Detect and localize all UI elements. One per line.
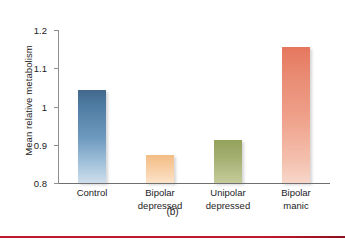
bar-control[interactable]: [78, 90, 106, 183]
x-axis-line: [58, 183, 330, 184]
figure-caption: (b): [0, 206, 345, 217]
y-tick-label-1.2: 1.2: [34, 25, 47, 36]
y-axis-label: Mean relative metabolism: [23, 26, 34, 176]
y-tick-label-1.1: 1.1: [34, 63, 47, 74]
y-tick-label-0.8: 0.8: [34, 178, 47, 189]
y-tick-0.8: 0.8: [54, 183, 59, 184]
y-tick-label-1.0: 1: [42, 101, 47, 112]
bottom-rule-divider: [0, 236, 345, 238]
bar-bipolar-depressed[interactable]: [146, 155, 174, 183]
bar-unipolar-depressed[interactable]: [214, 140, 242, 183]
y-tick-label-0.9: 0.9: [34, 139, 47, 150]
y-tick-1.0: 1: [54, 107, 59, 108]
bar-chart-figure: Mean relative metabolism 0.8 0.9 1 1.1 1…: [0, 0, 345, 243]
y-tick-1.1: 1.1: [54, 68, 59, 69]
bar-bipolar-manic[interactable]: [282, 47, 310, 183]
y-tick-0.9: 0.9: [54, 145, 59, 146]
y-tick-1.2: 1.2: [54, 30, 59, 31]
plot-area: 0.8 0.9 1 1.1 1.2 Control Bipolar depres…: [58, 30, 330, 184]
